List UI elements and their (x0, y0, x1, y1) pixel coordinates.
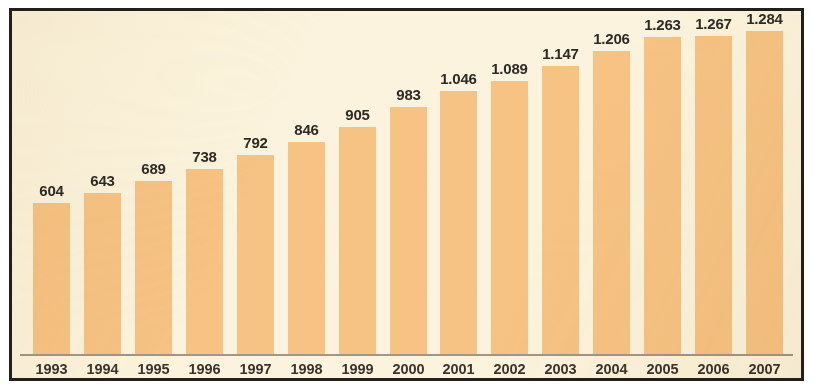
bars-layer: 6046436897387928469059831.0461.0891.1471… (12, 11, 801, 355)
bar-group[interactable]: 1.089 (491, 11, 528, 355)
bar-value-label-1998: 846 (279, 121, 334, 138)
x-tick-1995: 1995 (126, 361, 181, 377)
bar-value-label-2004: 1.206 (584, 30, 639, 47)
bar-1996[interactable] (186, 169, 223, 355)
bar-2002[interactable] (491, 81, 528, 355)
bar-value-label-1995: 689 (126, 160, 181, 177)
x-tick-1997: 1997 (228, 361, 283, 377)
bar-2006[interactable] (695, 36, 732, 355)
bar-group[interactable]: 689 (135, 11, 172, 355)
bar-2004[interactable] (593, 51, 630, 355)
x-tick-2003: 2003 (533, 361, 588, 377)
bar-group[interactable]: 1.147 (542, 11, 579, 355)
bar-2007[interactable] (746, 31, 783, 355)
x-tick-2006: 2006 (686, 361, 741, 377)
bar-value-label-1996: 738 (177, 148, 232, 165)
bar-group[interactable]: 905 (339, 11, 376, 355)
bar-group[interactable]: 604 (33, 11, 70, 355)
bar-2000[interactable] (390, 107, 427, 355)
bar-1999[interactable] (339, 127, 376, 355)
bar-group[interactable]: 643 (84, 11, 121, 355)
bar-group[interactable]: 1.263 (644, 11, 681, 355)
bar-group[interactable]: 1.267 (695, 11, 732, 355)
x-tick-1993: 1993 (24, 361, 79, 377)
bar-1997[interactable] (237, 155, 274, 355)
x-tick-1994: 1994 (75, 361, 130, 377)
bar-value-label-2001: 1.046 (431, 70, 486, 87)
bar-1994[interactable] (84, 193, 121, 355)
bar-1998[interactable] (288, 142, 325, 355)
bar-value-label-2006: 1.267 (686, 15, 741, 32)
bar-value-label-2003: 1.147 (533, 45, 588, 62)
x-tick-1996: 1996 (177, 361, 232, 377)
plot-area: 6046436897387928469059831.0461.0891.1471… (12, 11, 801, 378)
bar-value-label-2007: 1.284 (737, 10, 792, 27)
bar-group[interactable]: 792 (237, 11, 274, 355)
x-tick-2000: 2000 (381, 361, 436, 377)
x-tick-2007: 2007 (737, 361, 792, 377)
bar-2001[interactable] (440, 91, 477, 355)
bar-value-label-2005: 1.263 (635, 16, 690, 33)
bar-group[interactable]: 983 (390, 11, 427, 355)
bar-chart-figure: 6046436897387928469059831.0461.0891.1471… (0, 0, 815, 392)
bar-value-label-1999: 905 (330, 106, 385, 123)
bar-group[interactable]: 1.284 (746, 11, 783, 355)
x-axis-tick-labels: 1993199419951996199719981999200020012002… (12, 357, 801, 383)
bar-value-label-2002: 1.089 (482, 60, 537, 77)
x-axis-baseline (20, 354, 793, 356)
bar-group[interactable]: 1.206 (593, 11, 630, 355)
bar-group[interactable]: 846 (288, 11, 325, 355)
x-tick-2005: 2005 (635, 361, 690, 377)
bar-value-label-2000: 983 (381, 86, 436, 103)
bar-2003[interactable] (542, 66, 579, 355)
bar-value-label-1997: 792 (228, 134, 283, 151)
bar-value-label-1994: 643 (75, 172, 130, 189)
chart-frame-border: 6046436897387928469059831.0461.0891.1471… (9, 8, 804, 381)
x-tick-2004: 2004 (584, 361, 639, 377)
x-tick-1998: 1998 (279, 361, 334, 377)
bar-value-label-1993: 604 (24, 182, 79, 199)
bar-1995[interactable] (135, 181, 172, 355)
bar-group[interactable]: 1.046 (440, 11, 477, 355)
bar-1993[interactable] (33, 203, 70, 355)
x-tick-2002: 2002 (482, 361, 537, 377)
bar-2005[interactable] (644, 37, 681, 355)
x-tick-2001: 2001 (431, 361, 486, 377)
bar-group[interactable]: 738 (186, 11, 223, 355)
x-tick-1999: 1999 (330, 361, 385, 377)
